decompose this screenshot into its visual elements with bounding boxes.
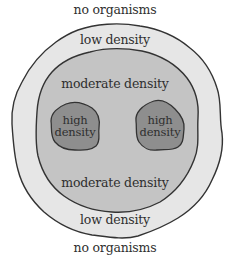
label-high-density-right: high density	[135, 114, 185, 138]
label-low-density-top: low density	[0, 32, 230, 47]
label-no-organisms-top: no organisms	[0, 2, 230, 17]
label-high-density-left: high density	[50, 114, 100, 138]
label-moderate-density-top: moderate density	[0, 76, 230, 91]
population-density-diagram: no organisms low density moderate densit…	[0, 0, 230, 260]
label-moderate-density-bottom: moderate density	[0, 175, 230, 190]
label-low-density-bottom: low density	[0, 212, 230, 227]
label-high-density-right-line2: density	[135, 126, 185, 138]
label-high-density-left-line2: density	[50, 126, 100, 138]
label-no-organisms-bottom: no organisms	[0, 240, 230, 255]
